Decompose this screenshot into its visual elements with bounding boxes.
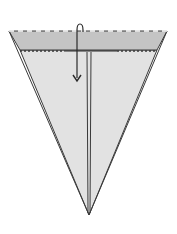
fold-diagram-svg	[0, 0, 177, 234]
origami-diagram	[0, 0, 177, 234]
top-flap-band	[9, 31, 167, 50]
paper-triangle-body	[20, 50, 157, 215]
